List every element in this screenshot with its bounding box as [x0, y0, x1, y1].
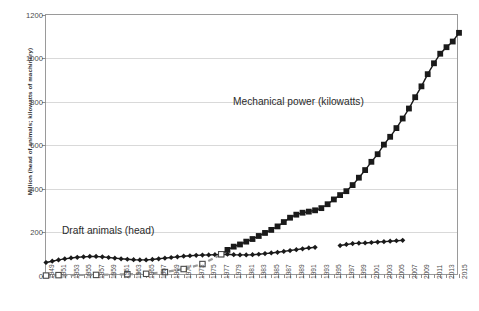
data-point-marker	[156, 256, 161, 261]
data-point-marker	[50, 258, 55, 263]
series-line	[46, 247, 315, 262]
x-tick-label: 1975	[210, 264, 217, 279]
x-tick-label: 2015	[461, 264, 468, 279]
data-point-marker	[368, 158, 374, 164]
series-square	[218, 29, 462, 256]
data-point-marker	[350, 240, 355, 245]
x-tick-label: 1991	[310, 264, 317, 279]
x-tick-label: 2007	[411, 264, 418, 279]
chart-container: Million (head of animals; kilowatts of m…	[0, 0, 479, 311]
data-point-marker	[281, 219, 287, 225]
data-point-marker	[181, 253, 186, 258]
data-point-marker	[394, 125, 400, 131]
data-point-marker	[363, 240, 368, 245]
x-tick-label: 1989	[298, 264, 305, 279]
y-tick-label: 400	[30, 184, 43, 193]
data-point-marker	[287, 247, 292, 252]
data-series-layer	[46, 15, 459, 276]
data-point-marker	[362, 167, 368, 173]
x-tick-label: 1963	[135, 264, 142, 279]
data-point-marker	[237, 252, 242, 257]
data-point-marker	[344, 241, 349, 246]
data-point-marker	[350, 182, 356, 188]
x-tick-label: 1981	[248, 264, 255, 279]
data-point-marker	[244, 252, 249, 257]
y-tick-label: 1000	[26, 54, 43, 63]
data-point-marker	[338, 242, 343, 247]
data-point-marker	[231, 252, 236, 257]
data-point-marker	[369, 239, 374, 244]
data-point-marker	[293, 211, 299, 217]
annotation-draft-animals: Draft animals (head)	[62, 225, 154, 236]
data-point-marker	[262, 230, 268, 236]
data-point-marker	[131, 257, 136, 262]
x-tick-label: 1959	[110, 264, 117, 279]
series-diamond	[43, 244, 317, 264]
x-tick-label: 1973	[198, 264, 205, 279]
x-tick-label: 1977	[223, 264, 230, 279]
x-tick-label: 1971	[185, 264, 192, 279]
data-point-marker	[187, 253, 192, 258]
data-point-marker	[325, 201, 331, 207]
data-point-marker	[150, 256, 155, 261]
data-point-marker	[456, 29, 462, 35]
data-point-marker	[419, 83, 425, 89]
data-point-marker	[387, 133, 393, 139]
annotation-mechanical-power: Mechanical power (kilowatts)	[233, 96, 364, 107]
data-point-marker	[431, 60, 437, 66]
data-point-marker	[112, 255, 117, 260]
data-point-marker	[231, 243, 237, 249]
data-point-marker	[412, 94, 418, 100]
data-point-marker	[375, 151, 381, 157]
data-point-marker	[106, 254, 111, 259]
data-point-marker	[87, 253, 92, 258]
x-tick-label: 1993	[323, 264, 330, 279]
x-tick-label: 1961	[123, 264, 130, 279]
data-point-marker	[450, 38, 456, 44]
x-tick-label: 1987	[285, 264, 292, 279]
x-tick-label: 1969	[173, 264, 180, 279]
x-tick-label: 1951	[60, 264, 67, 279]
data-point-marker	[318, 205, 324, 211]
x-tick-label: 2009	[423, 264, 430, 279]
x-tick-label: 2011	[436, 265, 443, 279]
data-point-marker	[287, 214, 293, 220]
data-point-marker	[306, 245, 311, 250]
data-point-marker	[225, 247, 231, 253]
data-point-marker	[194, 252, 199, 257]
data-point-marker	[356, 240, 361, 245]
data-point-marker	[444, 44, 450, 50]
data-point-marker	[144, 257, 149, 262]
data-point-marker	[68, 255, 73, 260]
data-point-marker	[312, 207, 318, 213]
x-tick-label: 1983	[260, 264, 267, 279]
data-point-marker	[81, 254, 86, 259]
data-point-marker	[100, 254, 105, 259]
data-point-marker	[137, 257, 142, 262]
data-point-marker	[275, 223, 281, 229]
data-point-marker	[268, 226, 274, 232]
data-point-marker	[219, 251, 224, 256]
x-tick-label: 1995	[335, 264, 342, 279]
data-point-marker	[388, 238, 393, 243]
x-tick-label: 2013	[448, 264, 455, 279]
y-tick-label: 0	[39, 271, 43, 280]
x-tick-label: 1985	[273, 264, 280, 279]
data-point-marker	[175, 254, 180, 259]
x-tick-label: 1955	[85, 264, 92, 279]
data-point-marker	[343, 188, 349, 194]
data-point-marker	[200, 252, 205, 257]
data-point-marker	[237, 241, 243, 247]
data-point-marker	[250, 252, 255, 257]
data-point-marker	[375, 239, 380, 244]
data-point-marker	[400, 115, 406, 121]
data-point-marker	[256, 233, 262, 239]
y-tick-label: 600	[30, 141, 43, 150]
x-tick-label: 1953	[73, 264, 80, 279]
data-point-marker	[312, 244, 317, 249]
y-tick-label: 800	[30, 97, 43, 106]
data-point-marker	[162, 255, 167, 260]
data-point-marker	[93, 253, 98, 258]
data-point-marker	[169, 254, 174, 259]
data-point-marker	[300, 209, 306, 215]
